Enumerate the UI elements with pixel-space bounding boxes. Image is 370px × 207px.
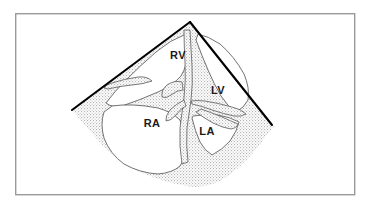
label-right-ventricle: RV — [170, 49, 186, 61]
label-left-atrium: LA — [199, 125, 214, 137]
label-left-ventricle: LV — [211, 84, 225, 96]
figure-root: RV LV RA LA — [0, 0, 370, 207]
echocardiogram-diagram: RV LV RA LA — [0, 0, 370, 207]
label-right-atrium: RA — [144, 117, 161, 129]
